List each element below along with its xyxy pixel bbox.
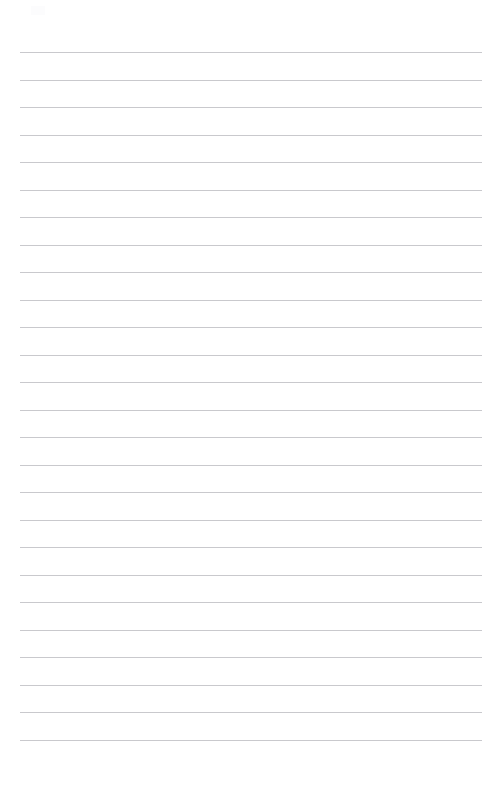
rule-line	[20, 657, 482, 658]
rule-line	[20, 382, 482, 383]
rule-line	[20, 685, 482, 686]
notepad-page	[0, 0, 484, 788]
rule-line	[20, 492, 482, 493]
rule-line	[20, 190, 482, 191]
rule-line	[20, 162, 482, 163]
rule-line	[20, 740, 482, 741]
rule-line	[20, 355, 482, 356]
rule-line	[20, 547, 482, 548]
rule-line	[20, 272, 482, 273]
rule-line	[20, 327, 482, 328]
rule-line	[20, 107, 482, 108]
rule-line	[20, 520, 482, 521]
rule-line	[20, 410, 482, 411]
rule-line	[20, 602, 482, 603]
rule-line	[20, 217, 482, 218]
ruled-writing-area[interactable]	[0, 0, 484, 788]
rule-line	[20, 575, 482, 576]
rule-line	[20, 245, 482, 246]
rule-line	[20, 300, 482, 301]
rule-line	[20, 712, 482, 713]
rule-line	[20, 135, 482, 136]
rule-line	[20, 80, 482, 81]
rule-line	[20, 630, 482, 631]
rule-line	[20, 52, 482, 53]
rule-line	[20, 465, 482, 466]
rule-line	[20, 437, 482, 438]
